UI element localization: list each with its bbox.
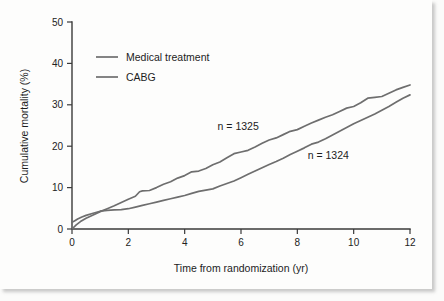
x-tick-label: 10 xyxy=(348,237,360,248)
y-tick-label: 30 xyxy=(52,99,64,110)
y-tick-label: 40 xyxy=(52,58,64,69)
series-line-medical-treatment xyxy=(72,85,410,229)
y-axis-title: Cumulative mortality (%) xyxy=(18,69,30,183)
x-tick-label: 8 xyxy=(295,237,301,248)
x-axis-ticks: 024681012 xyxy=(69,229,416,248)
y-tick-label: 50 xyxy=(52,17,64,28)
y-axis-ticks: 01020304050 xyxy=(52,17,72,235)
curve-annotations: n = 1325n = 1324 xyxy=(218,120,349,161)
series-lines xyxy=(72,85,410,229)
annotation-label: n = 1324 xyxy=(308,149,349,161)
legend-label-cabg: CABG xyxy=(126,71,156,83)
legend: Medical treatmentCABG xyxy=(96,51,210,83)
x-tick-label: 0 xyxy=(69,237,75,248)
annotation-label: n = 1325 xyxy=(218,120,259,132)
x-tick-label: 4 xyxy=(182,237,188,248)
cumulative-mortality-chart: 01020304050 024681012 n = 1325n = 1324 M… xyxy=(0,0,444,301)
y-tick-label: 20 xyxy=(52,141,64,152)
series-line-cabg xyxy=(72,95,410,223)
y-tick-label: 10 xyxy=(52,182,64,193)
y-tick-label: 0 xyxy=(57,224,63,235)
x-axis-title: Time from randomization (yr) xyxy=(174,262,308,274)
x-tick-label: 6 xyxy=(238,237,244,248)
legend-label-medical-treatment: Medical treatment xyxy=(126,51,210,63)
x-tick-label: 12 xyxy=(404,237,416,248)
figure-container: 01020304050 024681012 n = 1325n = 1324 M… xyxy=(0,0,444,301)
x-tick-label: 2 xyxy=(126,237,132,248)
